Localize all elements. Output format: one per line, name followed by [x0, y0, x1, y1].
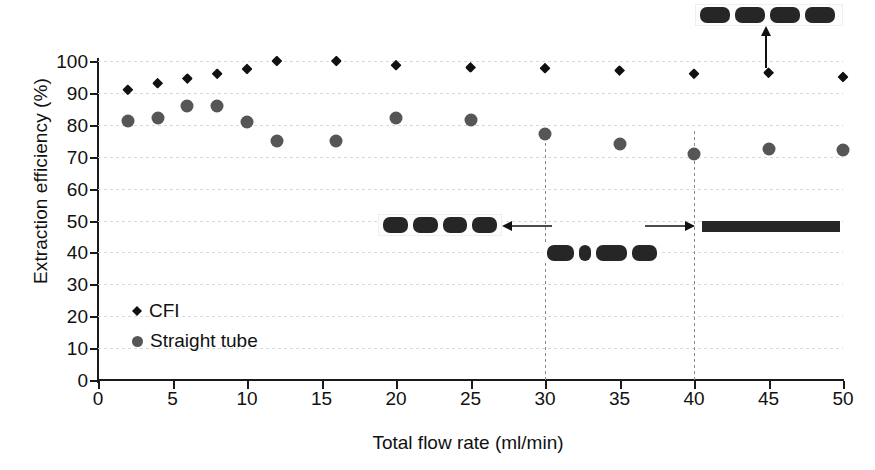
data-point-straight-tube-25 — [464, 114, 477, 127]
x-tick-label-10: 10 — [217, 389, 277, 408]
redacted-word — [413, 217, 438, 233]
data-point-straight-tube-50 — [837, 144, 850, 157]
redacted-word — [735, 7, 765, 23]
data-point-straight-tube-4 — [151, 112, 164, 125]
y-tick-label-50: 50 — [28, 211, 88, 230]
y-tick-label-20: 20 — [28, 307, 88, 326]
y-tick-mark-60 — [90, 189, 98, 191]
x-axis-tick-labels: 05101520253035404550 — [0, 389, 875, 419]
gridline-70 — [98, 157, 843, 158]
y-tick-mark-50 — [90, 221, 98, 223]
y-tick-mark-80 — [90, 125, 98, 127]
data-point-straight-tube-8 — [211, 99, 224, 112]
y-tick-mark-100 — [90, 61, 98, 63]
legend-marker-circle-icon — [132, 336, 143, 347]
x-tick-label-20: 20 — [366, 389, 426, 408]
redacted-word — [770, 7, 800, 23]
redacted-word — [472, 217, 497, 233]
left-arrow-icon — [502, 219, 552, 233]
data-point-cfi-35 — [614, 65, 625, 76]
y-tick-label-10: 10 — [28, 339, 88, 358]
y-tick-label-60: 60 — [28, 179, 88, 198]
x-tick-mark-20 — [396, 381, 398, 389]
x-tick-mark-15 — [322, 381, 324, 389]
x-tick-mark-30 — [545, 381, 547, 389]
y-tick-label-90: 90 — [28, 83, 88, 102]
extraction-efficiency-scatter-chart: Extraction efficiency (%) Total flow rat… — [0, 0, 875, 470]
mid-annotation-redacted — [543, 243, 661, 263]
gridline-100 — [98, 61, 843, 62]
redacted-word — [383, 217, 408, 233]
redacted-word — [805, 7, 835, 23]
y-tick-mark-30 — [90, 284, 98, 286]
gridline-30 — [98, 284, 843, 285]
x-tick-mark-45 — [769, 381, 771, 389]
chart-legend: CFIStraight tube — [132, 296, 258, 356]
x-axis-title: Total flow rate (ml/min) — [98, 432, 838, 454]
gridline-60 — [98, 189, 843, 190]
data-point-straight-tube-6 — [181, 99, 194, 112]
x-tick-label-40: 40 — [664, 389, 724, 408]
data-point-cfi-25 — [465, 62, 476, 73]
x-tick-mark-0 — [98, 381, 100, 389]
data-point-straight-tube-20 — [390, 112, 403, 125]
data-point-straight-tube-16 — [330, 134, 343, 147]
x-tick-label-0: 0 — [68, 389, 128, 408]
data-point-straight-tube-2 — [121, 114, 134, 127]
data-point-cfi-10 — [242, 63, 253, 74]
x-tick-label-5: 5 — [143, 389, 203, 408]
y-tick-mark-10 — [90, 348, 98, 350]
data-point-cfi-40 — [689, 68, 700, 79]
data-point-cfi-30 — [540, 63, 551, 74]
y-tick-mark-40 — [90, 252, 98, 254]
x-tick-label-25: 25 — [441, 389, 501, 408]
divider-line-x40 — [694, 131, 695, 380]
data-point-straight-tube-40 — [688, 148, 701, 161]
legend-marker-diamond-icon — [132, 306, 142, 316]
redacted-word — [443, 217, 468, 233]
redacted-word — [632, 245, 657, 261]
x-tick-label-50: 50 — [813, 389, 873, 408]
redacted-word — [547, 245, 574, 261]
data-point-straight-tube-12 — [270, 134, 283, 147]
x-tick-label-45: 45 — [739, 389, 799, 408]
x-tick-label-30: 30 — [515, 389, 575, 408]
data-point-cfi-16 — [331, 56, 342, 67]
top-annotation-redacted — [695, 4, 843, 26]
data-point-straight-tube-30 — [539, 128, 552, 141]
y-tick-label-40: 40 — [28, 243, 88, 262]
legend-label: Straight tube — [150, 330, 258, 352]
left-annotation-redacted — [378, 214, 502, 236]
gridline-90 — [98, 93, 843, 94]
x-tick-mark-25 — [471, 381, 473, 389]
x-tick-label-15: 15 — [292, 389, 352, 408]
data-point-cfi-50 — [838, 71, 849, 82]
redacted-word — [700, 7, 730, 23]
x-tick-mark-5 — [173, 381, 175, 389]
y-tick-mark-70 — [90, 157, 98, 159]
y-tick-label-100: 100 — [28, 52, 88, 71]
up-arrow-icon — [758, 26, 774, 68]
y-tick-label-80: 80 — [28, 115, 88, 134]
data-point-cfi-4 — [152, 78, 163, 89]
data-point-cfi-6 — [182, 73, 193, 84]
gridline-40 — [98, 252, 843, 253]
x-tick-mark-10 — [247, 381, 249, 389]
y-tick-mark-0 — [90, 380, 98, 382]
data-point-straight-tube-35 — [613, 137, 626, 150]
x-tick-label-35: 35 — [590, 389, 650, 408]
data-point-straight-tube-10 — [241, 115, 254, 128]
data-point-cfi-12 — [271, 56, 282, 67]
x-tick-mark-50 — [843, 381, 845, 389]
y-tick-label-0: 0 — [28, 371, 88, 390]
right-arrow-icon — [645, 219, 695, 233]
data-point-straight-tube-45 — [762, 142, 775, 155]
data-point-cfi-8 — [212, 68, 223, 79]
redacted-word — [596, 245, 627, 261]
legend-item-straight-tube: Straight tube — [132, 326, 258, 356]
x-tick-mark-35 — [620, 381, 622, 389]
y-tick-mark-90 — [90, 93, 98, 95]
legend-item-cfi: CFI — [132, 296, 258, 326]
y-tick-label-30: 30 — [28, 275, 88, 294]
x-tick-mark-40 — [694, 381, 696, 389]
